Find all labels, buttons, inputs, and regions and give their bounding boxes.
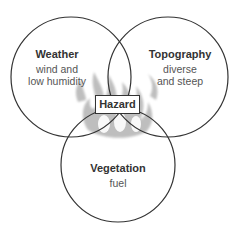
weather-title: Weather (25, 48, 89, 60)
venn-graphic (0, 0, 236, 236)
topography-title: Topography (148, 48, 212, 60)
hazard-box: Hazard (95, 95, 140, 114)
weather-desc-2: low humidity (28, 75, 86, 87)
topography-desc-2: and steep (157, 75, 203, 87)
weather-label: Weather wind and low humidity (25, 48, 89, 87)
vegetation-label: Vegetation fuel (85, 162, 151, 189)
topography-label: Topography diverse and steep (148, 48, 212, 87)
topography-desc-1: diverse (163, 63, 197, 75)
vegetation-desc: fuel (110, 177, 127, 189)
weather-desc-1: wind and (36, 63, 78, 75)
vegetation-title: Vegetation (85, 162, 151, 174)
